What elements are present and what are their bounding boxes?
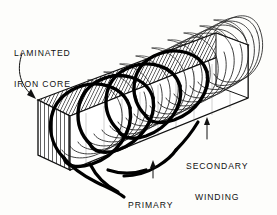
primary-lead-2: [90, 164, 118, 192]
label-primary-winding-line1: PRIMARY: [128, 200, 173, 210]
primary-lead-4: [108, 170, 146, 173]
primary-leader-arrowhead: [150, 160, 156, 168]
label-primary-winding: PRIMARY WINDING: [128, 180, 173, 215]
label-laminated-iron-core-line2: IRON CORE: [14, 79, 71, 89]
label-secondary-winding-line2: WINDING: [186, 192, 248, 202]
label-secondary-winding: SECONDARY WINDING: [186, 141, 248, 215]
core-right-end-face: [216, 33, 248, 98]
transformer-diagram-figure: LAMINATED IRON CORE SECONDARY WINDING PR…: [0, 0, 277, 215]
label-laminated-iron-core: LAMINATED IRON CORE: [14, 28, 71, 110]
secondary-leader-arrowhead: [204, 117, 210, 125]
label-laminated-iron-core-line1: LAMINATED: [14, 48, 71, 58]
label-secondary-winding-line1: SECONDARY: [186, 161, 248, 171]
